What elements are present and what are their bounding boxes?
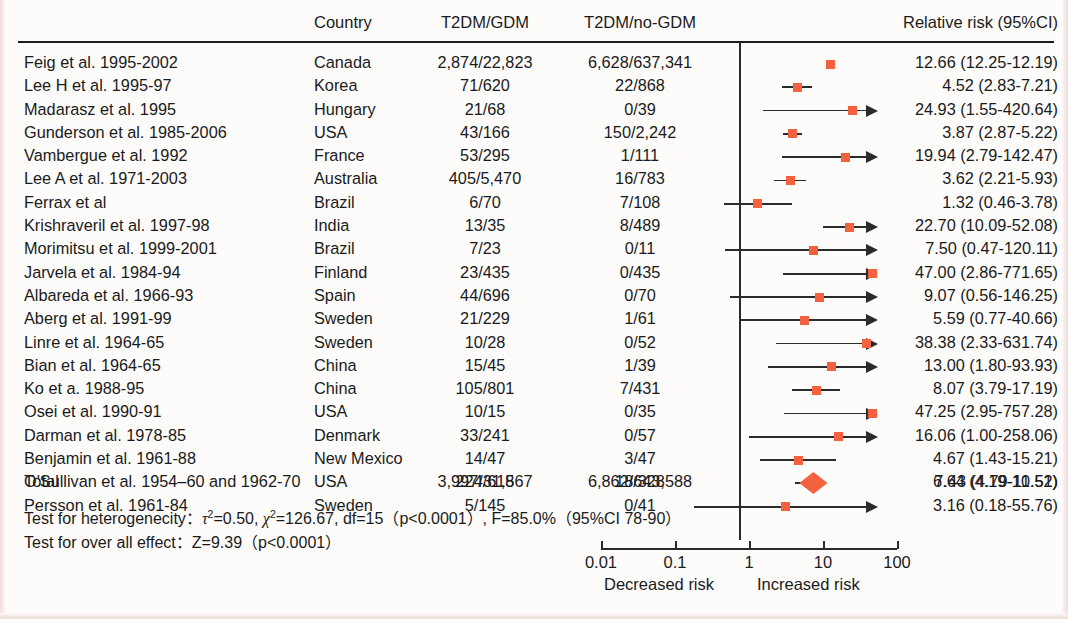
row-relative-risk: 13.00 (1.80-93.93) <box>900 356 1058 375</box>
row-study: Aberg et al. 1991-99 <box>24 309 172 328</box>
header-relative-risk: Relative risk (95%CI) <box>900 13 1058 35</box>
total-relative-risk: 7.43 (4.79-11.51) <box>900 472 1058 491</box>
heterogeneity-note: Test for heterogenecity：τ2=0.50, χ2=126.… <box>24 505 681 529</box>
row-country: Denmark <box>314 426 380 445</box>
row-country: Australia <box>314 169 377 188</box>
row-relative-risk: 7.50 (0.47-120.11) <box>900 239 1058 258</box>
row-study: Madarasz et al. 1995 <box>24 100 176 119</box>
heterogeneity-tau-value: =0.50, <box>213 510 258 527</box>
row-country: Spain <box>314 286 356 305</box>
row-country: China <box>314 356 357 375</box>
row-relative-risk: 3.87 (2.87-5.22) <box>900 123 1058 142</box>
row-t2dm-gdm: 21/68 <box>410 100 560 119</box>
row-relative-risk: 12.66 (12.25-12.19) <box>900 53 1058 72</box>
row-relative-risk: 38.38 (2.33-631.74) <box>900 333 1058 352</box>
row-t2dm-no-gdm: 7/108 <box>560 193 720 212</box>
row-t2dm-no-gdm: 1/111 <box>560 146 720 165</box>
axis-tick <box>749 541 751 549</box>
row-t2dm-no-gdm: 0/35 <box>560 402 720 421</box>
row-t2dm-gdm: 71/620 <box>410 76 560 95</box>
row-t2dm-gdm: 13/35 <box>410 216 560 235</box>
table-row: Vambergue et al. 1992France53/2951/11119… <box>0 146 1068 169</box>
row-country: New Mexico <box>314 449 403 468</box>
table-row: Jarvela et al. 1984-94Finland23/4350/435… <box>0 263 1068 286</box>
table-row: Linre et al. 1964-65Sweden10/280/5238.38… <box>0 333 1068 356</box>
axis-tick-label: 10 <box>783 553 863 572</box>
total-nogdm: 6,862/643,588 <box>560 472 720 491</box>
overall-effect-note: Test for over all effect：Z=9.39（p<0.0001… <box>24 529 341 553</box>
row-relative-risk: 16.06 (1.00-258.06) <box>900 426 1058 445</box>
axis-caption-decreased: Decreased risk <box>604 575 714 594</box>
total-gdm: 3,997/31,867 <box>410 472 560 491</box>
axis-tick <box>823 541 825 549</box>
axis-caption-increased: Increased risk <box>757 575 860 594</box>
row-t2dm-no-gdm: 0/435 <box>560 263 720 282</box>
row-t2dm-gdm: 33/241 <box>410 426 560 445</box>
header-t2dm-gdm: T2DM/GDM <box>410 13 560 35</box>
row-t2dm-no-gdm: 0/70 <box>560 286 720 305</box>
scan-edge-bottom <box>0 613 1068 619</box>
row-t2dm-gdm: 43/166 <box>410 123 560 142</box>
row-t2dm-gdm: 2,874/22,823 <box>410 53 560 72</box>
table-row: Osei et al. 1990-91USA10/150/3547.25 (2.… <box>0 402 1068 425</box>
row-relative-risk: 47.00 (2.86-771.65) <box>900 263 1058 282</box>
chi-symbol: χ <box>263 510 270 527</box>
table-row: Benjamin et al. 1961-88New Mexico14/473/… <box>0 449 1068 472</box>
axis-tick-label: 0.01 <box>561 553 641 572</box>
axis-tick <box>897 541 899 549</box>
row-t2dm-no-gdm: 0/11 <box>560 239 720 258</box>
table-row: Albareda et al. 1966-93Spain44/6960/709.… <box>0 286 1068 309</box>
row-country: Brazil <box>314 239 355 258</box>
row-study: Ferrax et al <box>24 193 106 212</box>
row-t2dm-gdm: 14/47 <box>410 449 560 468</box>
row-t2dm-gdm: 10/15 <box>410 402 560 421</box>
row-study: Osei et al. 1990-91 <box>24 402 162 421</box>
row-t2dm-no-gdm: 0/57 <box>560 426 720 445</box>
table-row: Ferrax et alBrazil6/707/1081.32 (0.46-3.… <box>0 193 1068 216</box>
row-country: USA <box>314 402 347 421</box>
row-study: Gunderson et al. 1985-2006 <box>24 123 227 142</box>
table-row: Aberg et al. 1991-99Sweden21/2291/615.59… <box>0 309 1068 332</box>
row-t2dm-no-gdm: 3/47 <box>560 449 720 468</box>
heterogeneity-chi-value: =126.67, df=15（p<0.0001）, F=85.0%（95%CI … <box>276 510 682 527</box>
table-row: Lee A et al. 1971-2003Australia405/5,470… <box>0 169 1068 192</box>
row-t2dm-gdm: 10/28 <box>410 333 560 352</box>
row-study: Lee A et al. 1971-2003 <box>24 169 187 188</box>
row-country: Sweden <box>314 333 373 352</box>
row-relative-risk: 5.59 (0.77-40.66) <box>900 309 1058 328</box>
row-t2dm-gdm: 15/45 <box>410 356 560 375</box>
row-study: Ko et a. 1988-95 <box>24 379 144 398</box>
row-relative-risk: 4.52 (2.83-7.21) <box>900 76 1058 95</box>
row-relative-risk: 19.94 (2.79-142.47) <box>900 146 1058 165</box>
row-t2dm-no-gdm: 7/431 <box>560 379 720 398</box>
axis-tick-label: 0.1 <box>635 553 715 572</box>
row-study: Jarvela et al. 1984-94 <box>24 263 181 282</box>
row-country: China <box>314 379 357 398</box>
row-t2dm-gdm: 53/295 <box>410 146 560 165</box>
row-country: Canada <box>314 53 371 72</box>
axis-tick-label: 1 <box>709 553 789 572</box>
table-row: Madarasz et al. 1995Hungary21/680/3924.9… <box>0 100 1068 123</box>
row-t2dm-gdm: 21/229 <box>410 309 560 328</box>
row-t2dm-no-gdm: 0/39 <box>560 100 720 119</box>
row-t2dm-no-gdm: 8/489 <box>560 216 720 235</box>
row-relative-risk: 47.25 (2.95-757.28) <box>900 402 1058 421</box>
row-country: USA <box>314 123 347 142</box>
row-relative-risk: 4.67 (1.43-15.21) <box>900 449 1058 468</box>
row-study: Linre et al. 1964-65 <box>24 333 164 352</box>
table-row: Krishraveril et al. 1997-98India13/358/4… <box>0 216 1068 239</box>
row-study: Morimitsu et al. 1999-2001 <box>24 239 217 258</box>
row-t2dm-no-gdm: 16/783 <box>560 169 720 188</box>
axis-tick <box>601 541 603 549</box>
row-t2dm-no-gdm: 1/39 <box>560 356 720 375</box>
forest-plot-figure: Country T2DM/GDM T2DM/no-GDM Relative ri… <box>0 0 1068 619</box>
row-t2dm-gdm: 6/70 <box>410 193 560 212</box>
row-country: Hungary <box>314 100 376 119</box>
row-country: Korea <box>314 76 357 95</box>
table-row: Darman et al. 1978-85Denmark33/2410/5716… <box>0 426 1068 449</box>
row-t2dm-no-gdm: 0/52 <box>560 333 720 352</box>
row-t2dm-gdm: 105/801 <box>410 379 560 398</box>
row-relative-risk: 8.07 (3.79-17.19) <box>900 379 1058 398</box>
row-relative-risk: 3.16 (0.18-55.76) <box>900 496 1058 515</box>
row-relative-risk: 22.70 (10.09-52.08) <box>900 216 1058 235</box>
